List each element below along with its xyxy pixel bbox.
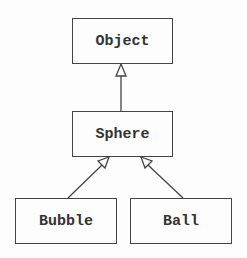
class-box-object: Object — [72, 18, 173, 64]
class-box-bubble: Bubble — [15, 198, 117, 244]
inheritance-arrowhead-icon — [116, 64, 126, 76]
class-label: Ball — [163, 213, 199, 230]
class-label: Bubble — [39, 213, 93, 230]
inheritance-arrowhead-icon — [98, 157, 109, 168]
class-label: Object — [95, 33, 149, 50]
class-label: Sphere — [95, 126, 149, 143]
class-box-sphere: Sphere — [72, 111, 173, 157]
class-box-ball: Ball — [130, 198, 232, 244]
edge-ball-sphere — [148, 165, 183, 198]
edge-bubble-sphere — [68, 165, 102, 198]
